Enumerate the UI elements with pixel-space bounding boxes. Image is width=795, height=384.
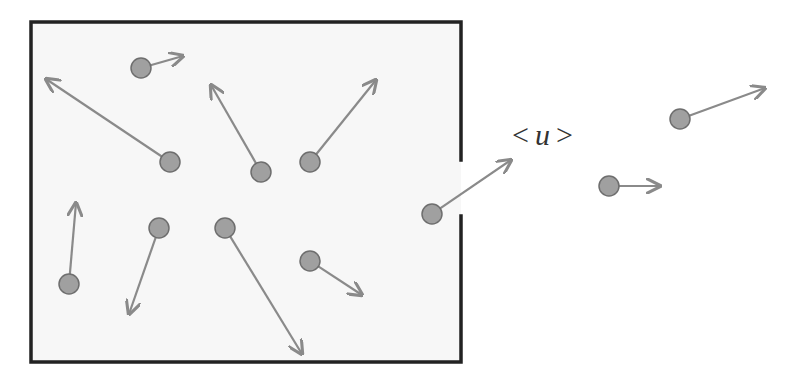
particle-inside xyxy=(129,218,169,314)
gas-molecule-icon xyxy=(422,204,442,224)
particle-inside xyxy=(211,85,271,182)
particle-outside xyxy=(599,176,660,196)
wall-left-top-right-upper xyxy=(31,22,461,362)
gas-molecule-icon xyxy=(300,251,320,271)
particle-inside xyxy=(215,218,302,354)
velocity-arrow-icon xyxy=(318,266,362,295)
gas-molecule-icon xyxy=(599,176,619,196)
mean-speed-label: <u> xyxy=(512,118,575,152)
velocity-arrow-icon xyxy=(129,236,156,314)
particle-inside xyxy=(59,203,79,294)
particle-inside xyxy=(131,56,183,78)
velocity-variable: u xyxy=(535,118,552,151)
diagram-canvas xyxy=(0,0,795,384)
particle-exiting xyxy=(422,160,511,224)
gas-molecule-icon xyxy=(131,58,151,78)
particle-inside xyxy=(300,251,362,295)
gas-molecule-icon xyxy=(300,152,320,172)
gas-molecule-icon xyxy=(149,218,169,238)
velocity-arrow-icon xyxy=(70,203,76,275)
velocity-arrow-icon xyxy=(230,236,302,354)
gas-molecule-icon xyxy=(59,274,79,294)
gas-molecule-icon xyxy=(215,218,235,238)
particle-outside xyxy=(670,88,765,129)
effusion-diagram: <u> xyxy=(0,0,795,384)
velocity-arrow-icon xyxy=(316,80,376,155)
velocity-arrow-icon xyxy=(439,160,511,209)
velocity-arrow-icon xyxy=(46,79,163,157)
particle-inside xyxy=(300,80,376,172)
velocity-arrow-icon xyxy=(688,88,765,116)
gas-molecule-icon xyxy=(251,162,271,182)
container-walls xyxy=(31,22,461,362)
gas-molecule-icon xyxy=(160,152,180,172)
angle-close: > xyxy=(556,118,575,151)
velocity-arrow-icon xyxy=(150,56,183,66)
particles-layer xyxy=(46,56,765,354)
angle-open: < xyxy=(512,118,531,151)
velocity-arrow-icon xyxy=(211,85,257,164)
gas-molecule-icon xyxy=(670,109,690,129)
particle-inside xyxy=(46,79,180,172)
